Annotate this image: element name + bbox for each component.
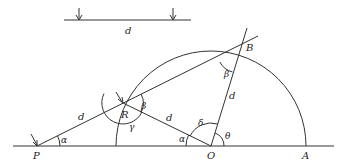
segment-label-PR: d bbox=[78, 111, 84, 122]
point-label-B: B bbox=[245, 42, 253, 53]
point-label-P: P bbox=[32, 150, 40, 161]
angle-label-beta-R: β bbox=[140, 101, 146, 111]
angle-label-alpha-O: α bbox=[179, 134, 185, 144]
line-PB bbox=[37, 36, 258, 146]
angle-arc-theta-O bbox=[215, 133, 224, 146]
segment-label-OB: d bbox=[229, 90, 235, 101]
trisection-diagram: d P R O A B d d d α α β β γ δ θ bbox=[0, 0, 349, 161]
angle-label-alpha-P: α bbox=[61, 135, 67, 145]
angle-label-gamma-R: γ bbox=[129, 122, 135, 132]
angle-arc-delta-O bbox=[190, 123, 218, 136]
angle-label-beta-B: β bbox=[223, 69, 229, 79]
ruler-mark-right-arrow-icon bbox=[170, 8, 176, 20]
point-label-A: A bbox=[301, 150, 309, 161]
angle-label-delta-O: δ bbox=[198, 118, 203, 128]
angle-arc-alpha-P bbox=[58, 136, 60, 146]
segment-label-RO: d bbox=[166, 112, 172, 123]
ruler-mark-left-arrow-icon bbox=[76, 8, 82, 20]
circle-arc bbox=[116, 51, 306, 146]
ruler-label: d bbox=[125, 25, 131, 36]
mark-arrow-R-icon bbox=[116, 92, 123, 103]
angle-label-theta-O: θ bbox=[225, 131, 231, 141]
point-label-O: O bbox=[207, 150, 215, 161]
mark-arrow-P-icon bbox=[31, 134, 37, 146]
point-label-R: R bbox=[120, 109, 129, 120]
segment-OB bbox=[211, 28, 247, 146]
angle-arc-alpha-O bbox=[186, 135, 189, 146]
